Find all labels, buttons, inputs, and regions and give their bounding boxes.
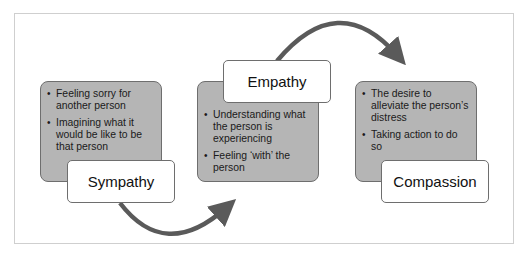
sympathy-bullet-1: Feeling sorry for another person: [47, 88, 155, 112]
compassion-label: Compassion: [381, 160, 489, 203]
compassion-bullet-1: The desire to alleviate the person’s dis…: [362, 88, 470, 124]
arrow-sympathy-to-empathy-icon: [120, 203, 226, 234]
compassion-bullet-2: Taking action to do so: [362, 129, 470, 153]
empathy-label: Empathy: [223, 60, 331, 103]
empathy-bullet-2: Feeling ‘with’ the person: [204, 150, 312, 174]
arrow-empathy-to-compassion-icon: [277, 23, 397, 61]
sympathy-label: Sympathy: [67, 160, 175, 203]
empathy-bullet-1: Understanding what the person is experie…: [204, 109, 312, 145]
sympathy-bullet-2: Imagining what it would be like to be th…: [47, 117, 155, 153]
